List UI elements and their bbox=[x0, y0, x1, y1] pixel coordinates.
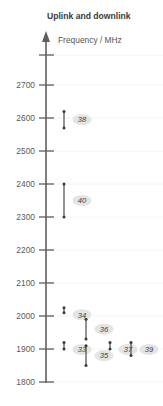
tick-label: 2100 bbox=[16, 278, 35, 288]
band-lower-cap-icon bbox=[85, 338, 88, 341]
band-upper-cap-icon bbox=[109, 341, 112, 344]
band-upper-cap-icon bbox=[63, 341, 66, 344]
band-label: 39 bbox=[145, 345, 154, 354]
band-upper-cap-icon bbox=[130, 341, 133, 344]
chart-title: Uplink and downlink bbox=[47, 11, 131, 21]
band-label: 35 bbox=[100, 351, 109, 360]
band-label: 40 bbox=[78, 196, 87, 205]
band-lower-cap-icon bbox=[109, 348, 112, 351]
band-lower-cap-icon bbox=[63, 126, 66, 129]
band-marker[interactable]: 36 bbox=[85, 318, 114, 341]
band-label: 38 bbox=[78, 115, 87, 124]
band-marker[interactable]: 37 bbox=[109, 341, 138, 355]
band-marker[interactable]: 34 bbox=[63, 306, 92, 320]
tick-label: 2300 bbox=[16, 212, 35, 222]
tick-label: 2500 bbox=[16, 146, 35, 156]
band-label: 37 bbox=[124, 345, 133, 354]
tick-label: 2000 bbox=[16, 311, 35, 321]
tick-label: 2700 bbox=[16, 80, 35, 90]
band-lower-cap-icon bbox=[63, 311, 66, 314]
band-lower-cap-icon bbox=[63, 216, 66, 219]
tick-label: 2400 bbox=[16, 179, 35, 189]
band-upper-cap-icon bbox=[63, 110, 66, 113]
tick-label: 2600 bbox=[16, 113, 35, 123]
band-upper-cap-icon bbox=[85, 344, 88, 347]
tick-label: 1900 bbox=[16, 344, 35, 354]
band-marker[interactable]: 40 bbox=[63, 183, 92, 219]
uplink-downlink-frequency-chart: Uplink and downlink Frequency / MHz 2700… bbox=[0, 0, 163, 406]
band-upper-cap-icon bbox=[63, 183, 66, 186]
band-lower-cap-icon bbox=[85, 364, 88, 367]
tick-label: 1800 bbox=[16, 377, 35, 387]
band-marker[interactable]: 33 bbox=[63, 341, 92, 355]
tick-label: 2200 bbox=[16, 245, 35, 255]
band-markers: 3840343633353739 bbox=[63, 110, 159, 367]
band-lower-cap-icon bbox=[63, 348, 66, 351]
band-label: 36 bbox=[100, 325, 109, 334]
band-upper-cap-icon bbox=[63, 306, 66, 309]
up-arrow-icon bbox=[42, 31, 50, 42]
band-lower-cap-icon bbox=[130, 354, 133, 357]
band-label: 34 bbox=[78, 311, 86, 320]
band-upper-cap-icon bbox=[85, 318, 88, 321]
band-marker[interactable]: 38 bbox=[63, 110, 92, 129]
tick-labels: 2700 2600 2500 2400 2300 2200 2100 2000 … bbox=[16, 80, 35, 387]
y-axis-label: Frequency / MHz bbox=[58, 35, 122, 45]
